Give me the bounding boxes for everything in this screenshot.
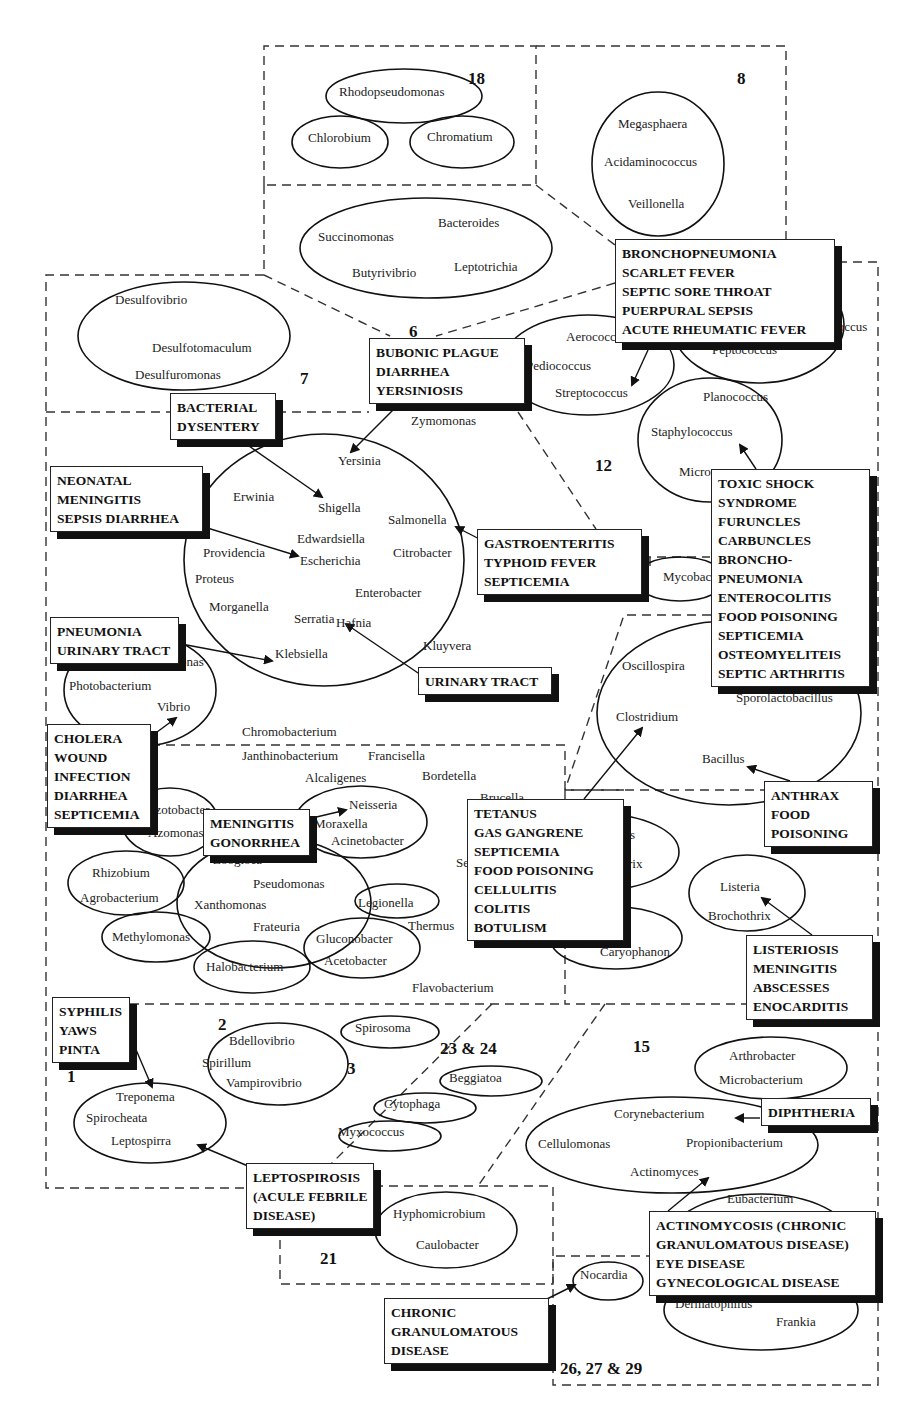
disease-name: MENINGITIS [753,959,866,978]
genus-label: Beggiatoa [449,1071,502,1084]
genus-label: Halobacterium [206,960,283,973]
genus-label: Peptococcus [712,343,777,356]
disease-name: INFECTION [54,767,144,786]
genus-label: Streptococcus [555,386,628,399]
disease-name: GASTROENTERITIS [484,534,635,553]
disease-name: SEPSIS DIARRHEA [57,509,196,528]
disease-box-neisseria-diseases: MENINGITISGONORRHEA [203,809,310,856]
genus-label: Klebsiella [275,647,328,660]
disease-box-serratia-diseases: URINARY TRACT [418,667,552,695]
genus-label: Treponema [116,1090,175,1103]
genus-label: Frankia [776,1315,816,1328]
disease-name: URINARY TRACT [425,672,545,691]
disease-name: ENTEROCOLITIS [718,588,863,607]
genus-label: Sporolactobacillus [736,691,833,704]
bacteria-disease-diagram: 188671223123 & 24152126, 27 & 29 Rhodops… [0,0,920,1421]
genus-label: Azotobacter [146,803,210,816]
disease-name: TETANUS [474,804,617,823]
genus-label: Actinomyces [630,1165,699,1178]
genus-label: Methylomonas [112,930,190,943]
genus-label: Spirocheata [86,1111,147,1124]
disease-name: DIPHTHERIA [768,1103,864,1122]
disease-name: SEPTICEMIA [474,842,617,861]
disease-name: SEPTICEMIA [718,626,863,645]
disease-name: ANTHRAX [771,786,866,805]
disease-name: BRONCHOPNEUMONIA [622,244,828,263]
disease-box-clostridium-diseases: TETANUSGAS GANGRENESEPTICEMIAFOOD POISON… [467,799,624,941]
disease-box-corynebacterium-diseases: DIPHTHERIA [761,1098,871,1126]
genus-label: Serratia [294,612,334,625]
group-number-g15: 15 [633,1038,650,1055]
genus-label: Staphylococcus [651,425,733,438]
disease-name: PNEUMONIA [57,622,172,641]
group-number-g18: 18 [468,70,485,87]
genus-label: Vibrio [157,700,190,713]
genus-label: Flavobacterium [412,981,494,994]
genus-label: Neisseria [349,798,397,811]
genus-label: Salmonella [388,513,447,526]
genus-label: Corynebacterium [614,1107,704,1120]
disease-name: BRONCHO- [718,550,863,569]
disease-name: FOOD POISONING [718,607,863,626]
disease-box-staph-diseases: TOXIC SHOCKSYNDROMEFURUNCLESCARBUNCLESBR… [711,469,870,687]
genus-label: Rhodopseudomonas [339,85,444,98]
disease-name: CHRONIC [391,1303,542,1322]
disease-name: SEPTICEMIA [484,572,635,591]
disease-name: FOOD [771,805,866,824]
genus-label: Caulobacter [416,1238,479,1251]
disease-name: (ACULE FEBRILE [253,1187,367,1206]
disease-name: POISONING [771,824,866,843]
genus-label: Spirosoma [355,1021,411,1034]
disease-name: DYSENTERY [177,417,269,436]
genus-label: Oscillospira [622,659,685,672]
disease-name: LEPTOSPIROSIS [253,1168,367,1187]
disease-name: YAWS [59,1021,123,1040]
disease-name: BACTERIAL [177,398,269,417]
genus-label: Eubacterium [727,1192,793,1205]
disease-box-escherichia-diseases: NEONATALMENINGITISSEPSIS DIARRHEA [50,466,203,532]
disease-name: ENOCARDITIS [753,997,866,1016]
disease-name: OSTEOMYELITEIS [718,645,863,664]
genus-label: Cytophaga [384,1097,440,1110]
disease-name: WOUND [54,748,144,767]
disease-name: YERSINIOSIS [376,381,518,400]
genus-label: Enterobacter [355,586,421,599]
disease-box-shigella-diseases: BACTERIALDYSENTERY [170,393,276,440]
disease-name: MENINGITIS [57,490,196,509]
genus-label: Bacillus [702,752,745,765]
disease-name: BUBONIC PLAGUE [376,343,518,362]
disease-box-vibrio-diseases: CHOLERAWOUNDINFECTIONDIARRHEASEPTICEMIA [47,724,151,828]
disease-box-strep-diseases: BRONCHOPNEUMONIASCARLET FEVERSEPTIC SORE… [615,239,835,343]
genus-label: Kluyvera [423,639,471,652]
genus-label: Propionibacterium [686,1136,783,1149]
genus-label: Bdellovibrio [229,1034,295,1047]
disease-name: DIARRHEA [54,786,144,805]
genus-label: Planococcus [703,390,768,403]
disease-name: GONORRHEA [210,833,303,852]
disease-name: MENINGITIS [210,814,303,833]
disease-box-listeria-diseases: LISTERIOSISMENINGITISABSCESSESENOCARDITI… [746,935,873,1020]
group-number-g3: 3 [347,1060,356,1077]
group-number-g8: 8 [737,70,746,87]
genus-label: Azomonas [148,826,204,839]
genus-label: Caryophanon [600,945,670,958]
genus-label: Acinetobacter [331,834,404,847]
genus-label: Desulfotomaculum [152,341,252,354]
disease-name: SCARLET FEVER [622,263,828,282]
genus-label: Morganella [209,600,269,613]
disease-name: PUERPURAL SEPSIS [622,301,828,320]
genus-label: Agrobacterium [80,891,159,904]
genus-label: Clostridium [616,710,678,723]
genus-label: Chromatium [427,130,493,143]
disease-name: TOXIC SHOCK [718,474,863,493]
genus-label: Acidaminococcus [604,155,697,168]
genus-label: Megasphaera [618,117,687,130]
genus-label: Chlorobium [308,131,371,144]
disease-name: SEPTIC ARTHRITIS [718,664,863,683]
disease-name: FURUNCLES [718,512,863,531]
genus-label: Dermatophilus [675,1297,752,1310]
genus-label: Hafnia [336,616,371,629]
disease-name: PINTA [59,1040,123,1059]
group-number-g12: 12 [595,457,612,474]
genus-label: Acetobacter [324,954,387,967]
